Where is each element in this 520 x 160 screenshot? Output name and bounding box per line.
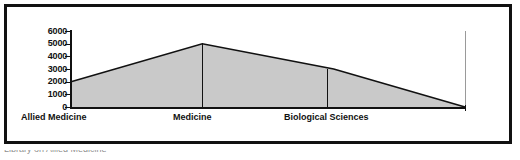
category-tick-medicine bbox=[202, 43, 203, 108]
y-tick-label-2000: 2000 bbox=[21, 77, 67, 86]
cutoff-caption-text: Library on Allied Medicine bbox=[4, 150, 107, 154]
y-tick-label-0: 0 bbox=[21, 103, 67, 112]
category-tick-right-end bbox=[465, 105, 466, 111]
cutoff-caption-strip: Library on Allied Medicine bbox=[4, 150, 304, 159]
category-label-biological-sciences: Biological Sciences bbox=[284, 112, 369, 122]
y-tick-label-3000: 3000 bbox=[21, 65, 67, 74]
y-tick-label-4000: 4000 bbox=[21, 52, 67, 61]
x-axis-line bbox=[70, 107, 466, 109]
y-tick-label-6000: 6000 bbox=[21, 27, 67, 36]
chart-canvas: 6000 5000 4000 3000 2000 1000 0 Allied M… bbox=[7, 7, 509, 141]
category-tick-biological-sciences bbox=[327, 69, 328, 108]
y-tick-label-1000: 1000 bbox=[21, 90, 67, 99]
y-tick-label-5000: 5000 bbox=[21, 39, 67, 48]
category-label-medicine: Medicine bbox=[173, 112, 212, 122]
upper-right-white-region bbox=[202, 31, 465, 106]
category-label-allied-medicine: Allied Medicine bbox=[21, 112, 87, 122]
figure-frame: 6000 5000 4000 3000 2000 1000 0 Allied M… bbox=[4, 4, 512, 144]
